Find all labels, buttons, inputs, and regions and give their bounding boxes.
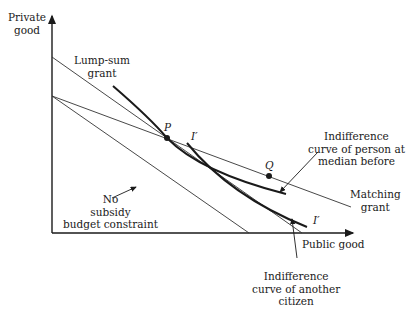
no-subsidy-label-line1: No [63,193,158,206]
another-label-line1: Indifference [252,270,340,283]
i-prime-top-label: I′ [191,130,198,143]
median-label-line2: curve of person at [308,143,405,156]
y-axis-label: Private good [8,11,46,36]
median-curve-label: Indifference curve of person at median b… [308,130,405,168]
another-citizen-indifference-curve [187,143,307,227]
another-curve-pointer [292,219,297,258]
matching-label-line1: Matching [350,188,401,201]
lump-sum-grant-label: Lump-sum grant [74,54,130,79]
y-axis-label-line1: Private [8,11,46,24]
lump-sum-label-line1: Lump-sum [74,54,130,67]
no-subsidy-label-line2: subsidy [63,206,158,219]
y-axis-label-line2: good [8,24,46,37]
point-p [164,135,170,141]
another-citizen-curve-label: Indifference curve of another citizen [252,270,340,308]
median-label-line1: Indifference [308,130,405,143]
no-subsidy-label-line3: budget constraint [63,218,158,231]
median-indifference-curve [113,86,286,194]
point-p-label: P [164,121,171,134]
matching-grant-line [52,96,351,207]
point-q [266,173,272,179]
i-prime-bottom-label: I′ [313,214,320,227]
median-label-line3: median before [308,155,405,168]
another-label-line2: curve of another [252,283,340,296]
another-label-line3: citizen [252,295,340,308]
x-axis-label: Public good [302,238,365,251]
matching-grant-label: Matching grant [350,188,401,213]
point-q-label: Q [265,159,274,172]
lump-sum-label-line2: grant [74,67,130,80]
matching-label-line2: grant [350,201,401,214]
no-subsidy-label: No subsidy budget constraint [63,193,158,231]
